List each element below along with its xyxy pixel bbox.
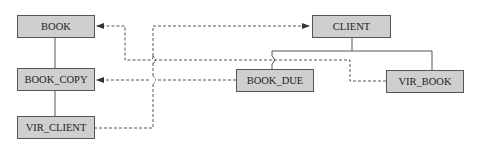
entity-label: VIR_BOOK: [398, 76, 451, 87]
client-tree-line: [272, 38, 432, 70]
entity-label: BOOK_COPY: [24, 74, 87, 85]
entity-book-copy[interactable]: BOOK_COPY: [17, 68, 95, 91]
entity-label: BOOK: [41, 21, 71, 32]
entity-book-due[interactable]: BOOK_DUE: [236, 69, 314, 92]
entity-vir-book[interactable]: VIR_BOOK: [386, 70, 464, 93]
entity-label: BOOK_DUE: [247, 75, 304, 86]
line-jump-icon: [153, 76, 156, 84]
entity-client[interactable]: CLIENT: [312, 15, 391, 38]
entity-label: VIR_CLIENT: [26, 122, 87, 133]
entity-vir-client[interactable]: VIR_CLIENT: [17, 116, 95, 139]
entity-book[interactable]: BOOK: [17, 15, 95, 38]
entity-label: CLIENT: [333, 21, 370, 32]
